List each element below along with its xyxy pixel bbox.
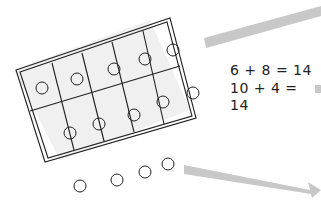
equation-1: 6 + 8 = 14 xyxy=(230,62,312,79)
counters-outside-frame xyxy=(74,158,174,192)
arrow-bottom xyxy=(184,165,321,198)
arrow-top xyxy=(204,6,321,48)
equation-2: 10 + 4 = 14 xyxy=(230,80,321,114)
diagram-canvas: 6 + 8 = 14 10 + 4 = 14 xyxy=(0,0,321,205)
